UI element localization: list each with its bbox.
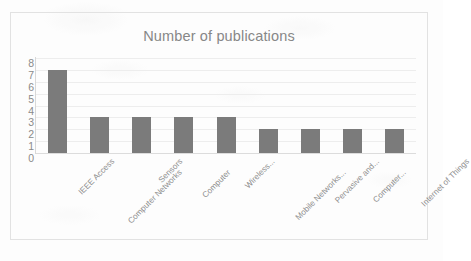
bar	[48, 70, 67, 153]
bar	[301, 129, 320, 153]
bar	[90, 117, 109, 153]
bar	[132, 117, 151, 153]
y-tick-label-6: 6	[14, 82, 34, 92]
y-tick-label-3: 3	[14, 117, 34, 127]
y-tick-label-2: 2	[14, 129, 34, 139]
bar	[259, 129, 278, 153]
x-axis-label: Computer	[200, 168, 232, 200]
x-axis-label: IEEE Access	[77, 157, 117, 197]
x-axis-label: Computer Networks	[127, 168, 185, 226]
x-axis-label: Wireless...	[243, 157, 276, 190]
bar	[343, 129, 362, 153]
x-axis-category-labels: IEEE AccessComputer NetworksSensorsCompu…	[36, 155, 421, 235]
bar	[385, 129, 404, 153]
chart-title: Number of publications	[11, 28, 427, 44]
bar-series	[36, 58, 416, 153]
bar	[174, 117, 193, 153]
bar	[217, 117, 236, 153]
y-tick-label-4: 4	[14, 106, 34, 116]
y-tick-label-0: 0	[14, 153, 34, 163]
y-tick-label-7: 7	[14, 70, 34, 80]
y-tick-label-1: 1	[14, 141, 34, 151]
y-axis-tick-labels: 876543210	[14, 51, 34, 156]
x-axis-label: Computer...	[371, 168, 407, 204]
gridline-0	[36, 153, 416, 154]
y-tick-label-8: 8	[14, 58, 34, 68]
y-tick-label-5: 5	[14, 94, 34, 104]
